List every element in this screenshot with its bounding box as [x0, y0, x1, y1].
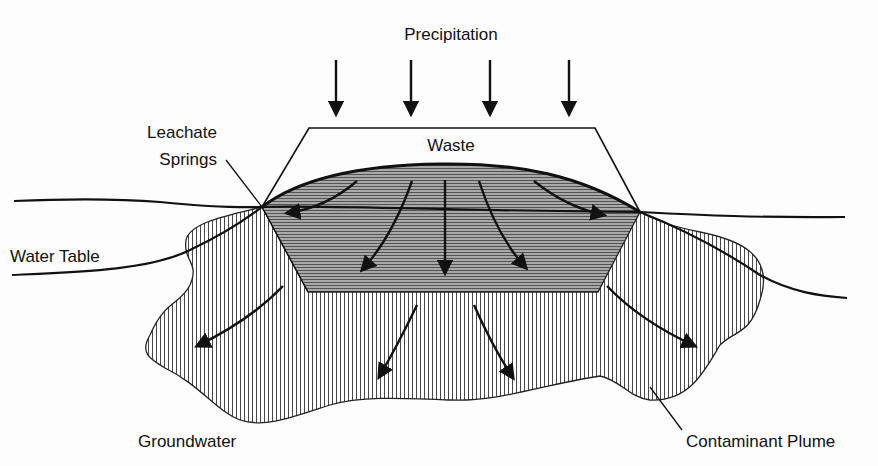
precipitation-label: Precipitation	[404, 25, 498, 44]
water-table-label: Water Table	[10, 247, 100, 266]
precipitation-arrows	[336, 60, 569, 114]
waste-label: Waste	[427, 136, 475, 155]
leachate-springs-label-line1: Leachate	[147, 123, 217, 142]
diagram-canvas: Precipitation Waste Leachate Springs Wat…	[0, 0, 878, 466]
leachate-springs-label-line2: Springs	[159, 150, 217, 169]
contaminant-plume-label: Contaminant Plume	[686, 432, 835, 451]
landfill-diagram: Precipitation Waste Leachate Springs Wat…	[0, 0, 878, 466]
groundwater-label: Groundwater	[138, 432, 237, 451]
leachate-springs-pointer	[226, 160, 262, 207]
